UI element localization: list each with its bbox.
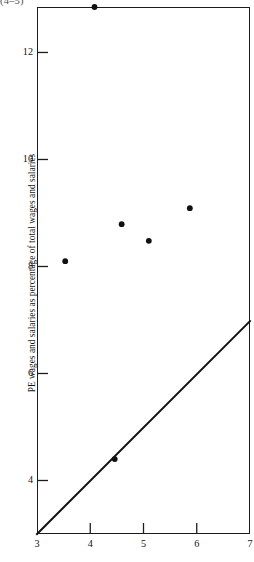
axis-tick-marks [37, 52, 197, 534]
reference-line [37, 321, 250, 534]
data-points [62, 4, 192, 462]
scatter-figure: (4–5) PE wages and salaries as percentag… [0, 0, 254, 562]
plot-marks-overlay [0, 0, 254, 562]
